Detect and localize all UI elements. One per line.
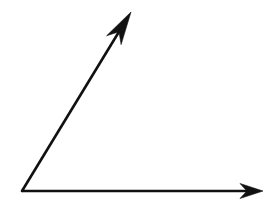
diagram-background: [0, 0, 275, 217]
figure-canvas: [0, 0, 275, 217]
vertex-point: [21, 190, 24, 193]
angle-diagram-svg: [0, 0, 275, 217]
